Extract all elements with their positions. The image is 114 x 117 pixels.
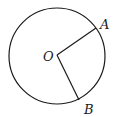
label-O: O	[43, 49, 54, 64]
label-A: A	[99, 17, 109, 32]
radius-OA	[57, 28, 96, 55]
circle-diagram: O A B	[0, 0, 114, 117]
label-B: B	[83, 102, 94, 117]
radius-OB	[57, 55, 79, 100]
